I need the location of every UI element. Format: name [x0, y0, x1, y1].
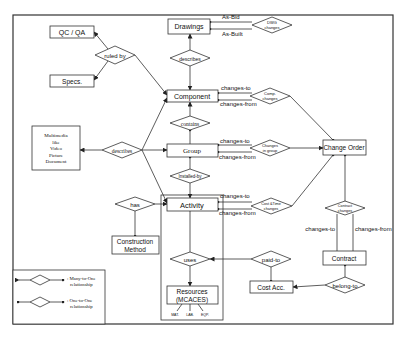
edge-label-changes-to: changes-to: [220, 193, 250, 199]
entity-change-order[interactable]: Change Order: [323, 140, 366, 155]
entity-label: Resources: [176, 288, 208, 295]
resource-type-lab: LAB.: [186, 313, 194, 317]
entity-label: Drawings: [174, 23, 204, 31]
rel-cost-time-changes[interactable]: Cost &Time changes: [251, 198, 292, 214]
edge-label-as-built: As-Built: [222, 31, 243, 37]
entity-label: Group: [183, 147, 201, 155]
relationship-label: in group: [263, 148, 278, 153]
entity-component[interactable]: Component: [167, 90, 218, 102]
entity-label: Change Order: [323, 144, 365, 152]
entity-qcqa[interactable]: QC / QA: [50, 26, 94, 38]
entity-label: Method: [124, 246, 146, 253]
entity-label: Activity: [180, 201, 204, 210]
edge-label-changes-from: changes-from: [355, 226, 392, 232]
resource-type-eqp: EQP.: [201, 313, 209, 317]
rel-dwg-changes[interactable]: DWG changes: [252, 17, 292, 33]
rel-describes-top[interactable]: describes: [170, 50, 210, 66]
entity-label: Contract: [332, 255, 357, 262]
entity-contract[interactable]: Contract: [323, 251, 366, 265]
rel-belong-to[interactable]: belong-to: [325, 277, 365, 293]
edge-label-changes-from: changes-from: [219, 154, 256, 160]
edge-label-changes-from: changes-from: [219, 210, 256, 216]
entity-cost-acc[interactable]: Cost Acc.: [250, 281, 293, 293]
entity-construction-method[interactable]: Construction Method: [112, 236, 159, 254]
entity-label: Document: [46, 159, 67, 164]
entity-label: Multimedia: [44, 133, 68, 138]
relationship-label: changes: [262, 96, 277, 101]
legend-label: : Many-to-One: [67, 276, 96, 281]
connectors: [80, 22, 353, 311]
relationship-label: has: [130, 202, 140, 208]
entity-specs[interactable]: Specs.: [50, 75, 94, 87]
resource-type-mat: MAT.: [171, 313, 179, 317]
relationship-label: changes: [264, 207, 278, 211]
rel-ruled-by[interactable]: ruled by: [95, 46, 135, 64]
relationship-label: describes: [179, 56, 201, 62]
relationship-label: ruled by: [104, 53, 125, 59]
relationship-label: describes: [112, 148, 132, 154]
edge-label-changes-from: changes-from: [220, 101, 257, 107]
entity-label: like: [52, 140, 60, 145]
entity-drawings[interactable]: Drawings: [168, 19, 210, 34]
relationship-label: changes: [264, 25, 279, 30]
legend-label: : One-to-One: [67, 298, 92, 303]
relationship-label: Contract: [338, 204, 353, 208]
entity-multimedia[interactable]: Multimedia like Video Picture Document: [32, 126, 80, 170]
edge-label-changes-to: changes-to: [221, 85, 251, 91]
rel-paid-to[interactable]: paid-to: [251, 251, 291, 267]
rel-installed-by[interactable]: Installed-by: [170, 169, 210, 183]
entity-label: Cost Acc.: [257, 284, 285, 291]
edge-label-changes-to: changes-to: [220, 138, 250, 144]
relationship-label: paid-to: [262, 257, 281, 263]
edge-label-as-bid: As-Bid: [222, 14, 240, 20]
entity-label: (MCACES): [176, 296, 208, 304]
entity-group[interactable]: Group: [167, 144, 218, 157]
rel-has[interactable]: has: [115, 197, 155, 211]
entity-label: QC / QA: [59, 29, 86, 37]
entity-label: Specs.: [62, 78, 82, 86]
er-diagram: QC / QA Specs. Drawings Component Group …: [0, 0, 402, 337]
relationship-label: uses: [184, 257, 197, 263]
legend-label: relationship: [70, 282, 93, 287]
entity-label: Picture: [49, 153, 64, 158]
rel-changes-in-group[interactable]: Changes in group: [250, 140, 290, 156]
entity-activity[interactable]: Activity: [167, 198, 218, 211]
legend: : Many-to-One relationship : One-to-One …: [13, 270, 105, 324]
relationship-label: changes: [338, 209, 352, 213]
entity-label: Video: [50, 146, 62, 151]
rel-contains[interactable]: contains: [170, 116, 210, 130]
entity-label: Construction: [117, 238, 154, 245]
relationship-label: Cost &Time: [261, 202, 281, 206]
edge-label-changes-to: changes-to: [305, 226, 335, 232]
rel-uses[interactable]: uses: [170, 252, 210, 266]
entity-label: Component: [174, 93, 210, 101]
entity-resources[interactable]: Resources (MCACES): [167, 286, 218, 304]
rel-describes-left[interactable]: describes: [102, 142, 142, 158]
legend-label: relationship: [70, 304, 93, 309]
relationship-label: belong-to: [332, 283, 358, 289]
relationship-label: Installed-by: [178, 174, 202, 179]
rel-contract-changes[interactable]: Contract changes: [325, 201, 365, 215]
relationship-label: contains: [181, 121, 199, 127]
